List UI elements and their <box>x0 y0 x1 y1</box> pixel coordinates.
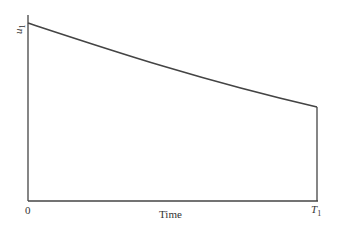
decay-curve <box>28 23 317 107</box>
x-origin-tick: 0 <box>25 204 31 216</box>
x-end-tick: T1 <box>311 203 321 218</box>
y-axis-label: u1 <box>12 25 27 35</box>
x-axis-label: Time <box>159 208 182 220</box>
chart-plot <box>0 0 339 229</box>
